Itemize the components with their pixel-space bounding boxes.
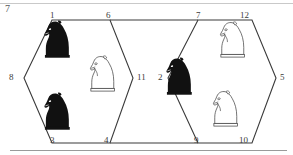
knight-white-icon xyxy=(213,91,237,126)
vertex-label-8: 8 xyxy=(9,73,14,82)
vertex-label-10: 10 xyxy=(239,136,248,145)
vertex-label-11: 11 xyxy=(137,73,146,82)
vertex-label-6: 6 xyxy=(106,11,111,20)
vertex-label-1: 1 xyxy=(50,11,55,20)
knight-white-icon xyxy=(90,56,114,91)
vertex-label-2: 2 xyxy=(158,73,163,82)
knight-black-icon xyxy=(44,93,69,130)
vertex-label-7: 7 xyxy=(196,11,201,20)
vertex-label-9: 9 xyxy=(194,136,199,145)
hexagon-knight-diagram xyxy=(0,0,293,155)
vertex-label-12: 12 xyxy=(240,11,249,20)
vertex-label-5: 5 xyxy=(280,73,285,82)
knight-white-icon xyxy=(220,22,244,57)
left-hexagon xyxy=(24,20,133,143)
vertex-label-3: 3 xyxy=(50,136,55,145)
knight-black-icon xyxy=(44,21,69,58)
knight-black-icon xyxy=(166,58,191,95)
vertex-label-4: 4 xyxy=(104,136,109,145)
